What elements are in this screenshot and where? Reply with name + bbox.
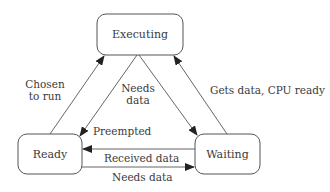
state-label-waiting: Waiting bbox=[195, 148, 260, 161]
label-preempted: Preempted bbox=[93, 125, 151, 137]
label-needs-data-vertical: Needs data bbox=[120, 82, 156, 106]
state-label-executing: Executing bbox=[97, 28, 183, 41]
label-needs-line2: data bbox=[120, 94, 156, 106]
label-needs-line1: Needs bbox=[120, 82, 156, 94]
label-needs-data-horizontal: Needs data bbox=[112, 171, 173, 183]
label-chosen-to-run: Chosen to run bbox=[24, 78, 66, 102]
state-label-ready: Ready bbox=[18, 148, 82, 161]
label-chosen-line1: Chosen bbox=[24, 78, 66, 90]
label-gets-data-cpu-ready: Gets data, CPU ready bbox=[210, 84, 325, 96]
label-received-data: Received data bbox=[104, 152, 179, 164]
label-chosen-line2: to run bbox=[24, 90, 66, 102]
